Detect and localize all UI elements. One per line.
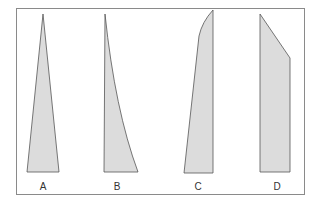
label-c: C bbox=[194, 181, 201, 192]
label-a: A bbox=[40, 181, 47, 192]
shape-d bbox=[260, 14, 290, 172]
shape-c bbox=[184, 10, 213, 173]
label-d: D bbox=[273, 181, 280, 192]
shape-a bbox=[27, 14, 59, 172]
label-b: B bbox=[114, 181, 121, 192]
shapes-canvas bbox=[0, 0, 315, 204]
shape-b bbox=[104, 14, 138, 172]
